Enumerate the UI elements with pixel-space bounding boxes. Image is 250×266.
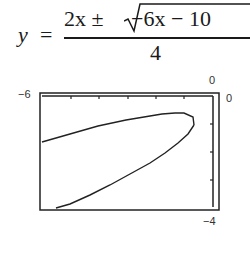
upper-branch-curve xyxy=(42,113,194,142)
plot-frame xyxy=(40,93,219,210)
lower-branch-curve xyxy=(56,125,194,208)
graph-window xyxy=(0,0,250,266)
